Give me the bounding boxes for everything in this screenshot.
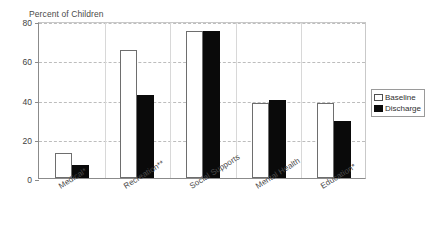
bar-baseline xyxy=(186,31,203,178)
bar-baseline xyxy=(120,50,137,178)
legend-item-label: Baseline xyxy=(385,94,416,102)
plot-area: 020406080 xyxy=(38,22,366,179)
y-tick-label: 20 xyxy=(23,136,32,146)
chart-title: Percent of Children xyxy=(29,9,104,19)
bar-group xyxy=(301,23,367,178)
bar-group xyxy=(39,23,105,178)
y-tick-label: 40 xyxy=(23,97,32,107)
legend-item[interactable]: Discharge xyxy=(374,103,421,114)
bar-group xyxy=(105,23,171,178)
y-tick-label: 60 xyxy=(23,57,32,67)
y-tick-mark xyxy=(35,180,39,181)
bar-chart: Percent of Children 020406080 Medical*Re… xyxy=(0,0,435,248)
bar-baseline xyxy=(252,103,269,178)
legend-item[interactable]: Baseline xyxy=(374,92,421,103)
bar-discharge xyxy=(203,31,220,178)
bar-baseline xyxy=(317,103,334,178)
bar-group xyxy=(236,23,302,178)
legend-swatch-icon xyxy=(374,105,383,112)
chart-legend: BaselineDischarge xyxy=(371,89,425,117)
legend-item-label: Discharge xyxy=(385,105,421,113)
legend-swatch-icon xyxy=(374,94,383,101)
bar-group xyxy=(170,23,236,178)
y-tick-label: 80 xyxy=(23,18,32,28)
y-tick-label: 0 xyxy=(27,175,32,185)
